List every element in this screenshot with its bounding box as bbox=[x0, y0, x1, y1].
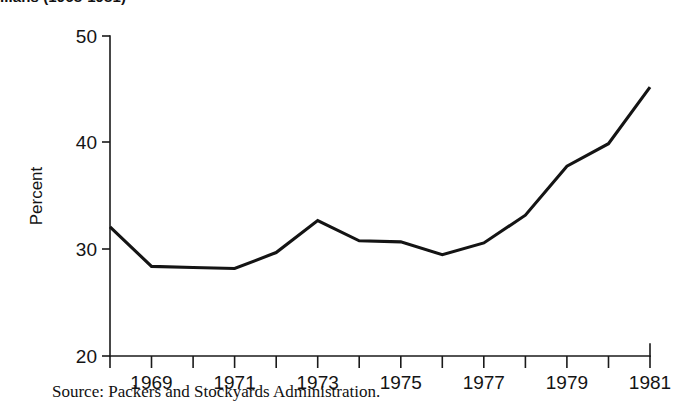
source-note: Source: Packers and Stockyards Administr… bbox=[52, 382, 380, 402]
x-tick-label-1977: 1977 bbox=[463, 372, 505, 393]
x-tick-label-1981: 1981 bbox=[629, 372, 671, 393]
y-tick-label-20: 20 bbox=[76, 346, 97, 367]
line-chart-svg: 50 40 30 20 Percent 1969 1971 1973 1975 bbox=[0, 0, 684, 413]
x-tick-label-1979: 1979 bbox=[546, 372, 588, 393]
y-tick-label-30: 30 bbox=[76, 239, 97, 260]
data-series-line bbox=[110, 87, 650, 268]
x-tick-marks bbox=[110, 356, 650, 368]
y-tick-label-40: 40 bbox=[76, 132, 97, 153]
x-tick-label-1975: 1975 bbox=[380, 372, 422, 393]
y-tick-marks bbox=[102, 36, 110, 356]
y-axis-title: Percent bbox=[27, 166, 46, 225]
chart-plot-area: 50 40 30 20 Percent 1969 1971 1973 1975 bbox=[0, 0, 684, 413]
y-tick-label-50: 50 bbox=[76, 26, 97, 47]
